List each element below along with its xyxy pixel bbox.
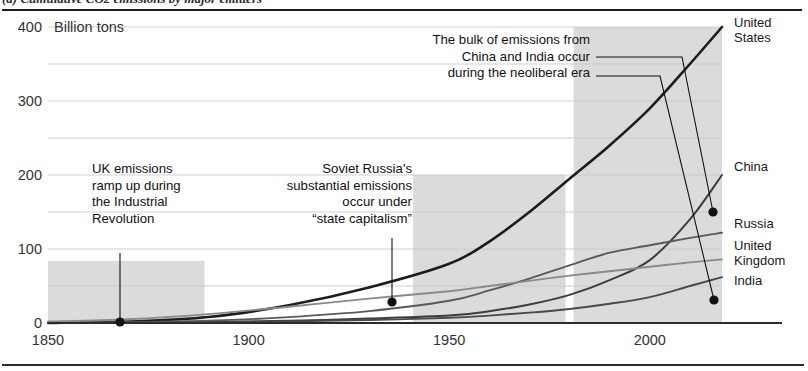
annotation-line-china-india-neoliberal: The bulk of emissions from: [432, 32, 590, 47]
annotation-point-india-point: [709, 295, 718, 304]
series-label-china: China: [734, 159, 769, 174]
annotation-line-uk-industrial-revolution: UK emissions: [92, 161, 173, 176]
series-label-layer: UnitedStatesChinaRussiaUnitedKingdomIndi…: [734, 15, 785, 288]
annotation-line-china-india-neoliberal: during the neoliberal era: [448, 65, 591, 80]
series-label-india: India: [734, 273, 763, 288]
annotation-line-soviet-state-capitalism: occur under: [342, 194, 412, 209]
annotation-point-soviet-state-capitalism: [387, 297, 396, 306]
annotation-line-uk-industrial-revolution: Revolution: [92, 211, 154, 226]
x-tick-label-1850: 1850: [32, 332, 64, 348]
y-tick-label-0: 0: [34, 315, 42, 331]
emissions-line-chart: 0100200300400Billion tons185019001950200…: [0, 0, 808, 371]
series-label-russia: Russia: [734, 216, 775, 231]
series-label-united-kingdom: United: [734, 238, 772, 253]
series-label-united-states: United: [734, 15, 772, 30]
x-tick-label-1950: 1950: [433, 332, 465, 348]
annotation-line-soviet-state-capitalism: substantial emissions: [287, 178, 413, 193]
y-tick-label-100: 100: [18, 241, 42, 257]
y-tick-label-200: 200: [18, 167, 42, 183]
series-label-united-kingdom: Kingdom: [734, 253, 785, 268]
chart-page: (a) Cumulative CO2 emissions by major em…: [0, 0, 808, 371]
industrial-revolution-band: [48, 261, 204, 323]
annotation-line-uk-industrial-revolution: the Industrial: [92, 194, 168, 209]
series-label-united-states: States: [734, 30, 771, 45]
annotation-point-china-point: [708, 207, 717, 216]
y-axis-unit-label: Billion tons: [54, 19, 124, 35]
x-tick-label-1900: 1900: [232, 332, 264, 348]
y-tick-label-400: 400: [18, 19, 42, 35]
annotation-line-china-india-neoliberal: China and India occur: [462, 49, 591, 64]
annotation-line-soviet-state-capitalism: “state capitalism”: [312, 211, 412, 226]
y-tick-label-300: 300: [18, 93, 42, 109]
annotation-line-uk-industrial-revolution: ramp up during: [92, 178, 181, 193]
annotation-line-soviet-state-capitalism: Soviet Russia's: [322, 161, 412, 176]
x-tick-label-2000: 2000: [634, 332, 666, 348]
figure-footer-divider: [2, 364, 804, 366]
annotation-point-uk-industrial-revolution: [115, 317, 124, 326]
